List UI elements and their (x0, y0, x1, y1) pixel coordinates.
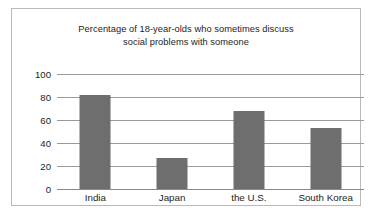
bar-group (134, 74, 211, 189)
bar-japan[interactable] (157, 158, 188, 189)
y-tick-label-80: 80 (17, 92, 51, 103)
bar-group (57, 74, 134, 189)
bar-the-u-s[interactable] (233, 111, 264, 189)
x-label-south-korea: South Korea (287, 192, 364, 203)
chart-title-line-2: social problems with someone (12, 36, 360, 49)
x-label-the-u-s: the U.S. (211, 192, 288, 203)
chart-title: Percentage of 18-year-olds who sometimes… (12, 23, 360, 48)
x-label-india: India (57, 192, 134, 203)
y-tick-label-0: 0 (17, 184, 51, 195)
bar-group (211, 74, 288, 189)
y-tick-label-20: 20 (17, 161, 51, 172)
bar-south-korea[interactable] (310, 128, 341, 189)
y-tick-label-100: 100 (17, 69, 51, 80)
chart-title-line-1: Percentage of 18-year-olds who sometimes… (12, 23, 360, 36)
plot-area: 020406080100 (57, 74, 364, 189)
x-label-japan: Japan (134, 192, 211, 203)
chart-frame: Percentage of 18-year-olds who sometimes… (11, 8, 361, 206)
x-axis-category-labels: IndiaJapanthe U.S.South Korea (57, 192, 364, 208)
gridline-0 (57, 189, 364, 190)
bar-india[interactable] (80, 95, 111, 189)
bars (57, 74, 364, 189)
y-tick-label-40: 40 (17, 138, 51, 149)
y-tick-label-60: 60 (17, 115, 51, 126)
bar-group (287, 74, 364, 189)
